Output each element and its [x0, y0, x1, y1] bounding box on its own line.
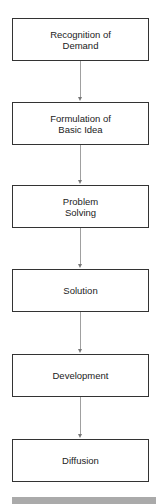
- node-label: Diffusion: [62, 455, 99, 466]
- node-formulation-of-basic-idea: Formulation ofBasic Idea: [12, 102, 149, 145]
- connector-line: [80, 228, 81, 265]
- node-recognition-of-demand: Recognition ofDemand: [12, 18, 149, 61]
- arrow-down-icon: [78, 264, 82, 268]
- arrow-down-icon: [78, 97, 82, 101]
- connector-line: [80, 312, 81, 350]
- node-label-line: Formulation of: [50, 113, 111, 124]
- node-problem-solving: ProblemSolving: [12, 185, 149, 228]
- node-label-line: Problem: [63, 196, 98, 207]
- node-label: Development: [53, 370, 109, 381]
- connector-line: [80, 61, 81, 98]
- footer-bar: [12, 497, 156, 504]
- node-label: Solution: [63, 285, 97, 296]
- node-label-line: Demand: [63, 40, 99, 51]
- arrow-down-icon: [78, 349, 82, 353]
- node-solution: Solution: [12, 269, 149, 312]
- arrow-down-icon: [78, 434, 82, 438]
- node-diffusion: Diffusion: [12, 439, 149, 482]
- node-label-line: Basic Idea: [58, 124, 102, 135]
- arrow-down-icon: [78, 180, 82, 184]
- node-label-line: Solving: [65, 207, 96, 218]
- node-label-line: Recognition of: [50, 29, 111, 40]
- connector-line: [80, 145, 81, 181]
- connector-line: [80, 397, 81, 435]
- node-development: Development: [12, 354, 149, 397]
